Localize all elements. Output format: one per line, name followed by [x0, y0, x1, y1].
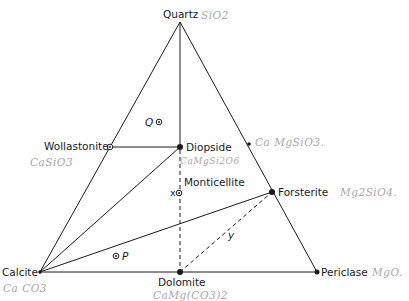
handwritten-diopside-formula: CaMgSi2O6	[180, 156, 240, 166]
label-point-y: y	[227, 229, 235, 241]
tieline-dolomite-forsterite	[180, 192, 272, 272]
handwritten-quartz-formula: SiO2	[201, 9, 229, 21]
marker-point-q	[156, 119, 162, 125]
label-periclase: Periclase	[321, 266, 368, 278]
marker-point-p	[113, 253, 119, 259]
label-point-q: Q	[145, 116, 153, 128]
label-monticellite: Monticellite	[184, 176, 245, 188]
marker-enstatite	[247, 142, 251, 146]
label-calcite: Calcite	[2, 266, 38, 278]
marker-periclase	[315, 270, 320, 275]
handwritten-dolomite-formula: CaMg(CO3)2	[153, 289, 228, 301]
label-diopside: Diopside	[186, 141, 232, 153]
handwritten-calcite-formula: Ca CO3	[3, 282, 47, 294]
label-dolomite: Dolomite	[158, 276, 206, 288]
label-point-x: x	[170, 187, 176, 198]
handwritten-forsterite-formula: Mg2SiO4.	[339, 186, 397, 198]
label-wollastonite: Wollastonite	[44, 140, 109, 152]
handwritten-periclase-formula: MgO.	[371, 266, 403, 278]
label-point-p: P	[122, 250, 129, 262]
label-forsterite: Forsterite	[278, 186, 328, 198]
handwritten-wollastonite-formula: CaSiO3	[30, 156, 73, 168]
marker-forsterite	[269, 189, 275, 195]
tieline-calcite-forsterite	[40, 192, 272, 272]
marker-dolomite	[177, 269, 183, 275]
marker-monticellite	[176, 190, 182, 196]
label-quartz: Quartz	[163, 8, 199, 20]
marker-diopside	[177, 144, 183, 150]
handwritten-enstatite-formula: Ca MgSiO3.	[255, 136, 324, 148]
marker-calcite	[38, 270, 42, 274]
ternary-diagram: Quartz Wollastonite Diopside Monticellit…	[0, 0, 409, 301]
